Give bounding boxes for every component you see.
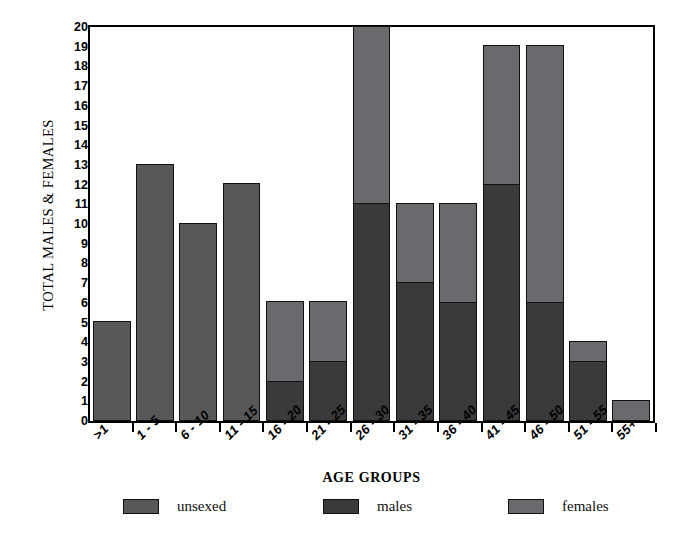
- y-tick-label-19: 19: [62, 41, 88, 53]
- y-tick-label-20: 20: [62, 21, 88, 33]
- bar-group[interactable]: [526, 27, 564, 421]
- bars-layer: [90, 27, 653, 421]
- x-axis-title: AGE GROUPS: [88, 470, 655, 486]
- bar-segment-females[interactable]: [309, 301, 347, 362]
- y-tick-label-11: 11: [62, 198, 88, 210]
- legend-label-unsexed: unsexed: [177, 498, 226, 515]
- y-tick-label-6: 6: [62, 297, 88, 309]
- bar-group[interactable]: [179, 27, 217, 421]
- bar-segment-females[interactable]: [266, 301, 304, 381]
- y-tick-label-12: 12: [62, 179, 88, 191]
- y-tick-label-15: 15: [62, 120, 88, 132]
- bar-segment-males[interactable]: [396, 282, 434, 421]
- legend-swatch-females: [508, 499, 544, 514]
- bar-group[interactable]: [569, 27, 607, 421]
- y-tick-label-2: 2: [62, 376, 88, 388]
- bar-chart-figure: TOTAL MALES & FEMALES 012345678910111213…: [0, 0, 679, 546]
- bar-group[interactable]: [266, 27, 304, 421]
- bar-group[interactable]: [396, 27, 434, 421]
- bar-segment-unsexed[interactable]: [223, 183, 261, 421]
- legend-label-females: females: [562, 498, 609, 515]
- bar-segment-unsexed[interactable]: [136, 164, 174, 422]
- y-tick-label-8: 8: [62, 257, 88, 269]
- y-tick-label-5: 5: [62, 317, 88, 329]
- bar-segment-females[interactable]: [353, 26, 391, 205]
- bar-segment-unsexed[interactable]: [93, 321, 131, 421]
- bar-segment-females[interactable]: [396, 203, 434, 283]
- y-tick-label-4: 4: [62, 336, 88, 348]
- bar-segment-females[interactable]: [569, 341, 607, 362]
- bar-segment-males[interactable]: [483, 183, 521, 421]
- bar-group[interactable]: [439, 27, 477, 421]
- legend-item-males[interactable]: males: [323, 498, 412, 515]
- bar-group[interactable]: [612, 27, 650, 421]
- bar-group[interactable]: [93, 27, 131, 421]
- legend-swatch-males: [323, 499, 359, 514]
- y-tick-label-0: 0: [62, 415, 88, 427]
- y-tick-label-7: 7: [62, 277, 88, 289]
- chart-legend: unsexedmalesfemales: [88, 498, 655, 528]
- y-tick-label-9: 9: [62, 238, 88, 250]
- legend-swatch-unsexed: [123, 499, 159, 514]
- bar-group[interactable]: [353, 27, 391, 421]
- legend-label-males: males: [377, 498, 412, 515]
- y-tick-label-13: 13: [62, 159, 88, 171]
- bar-segment-females[interactable]: [483, 45, 521, 184]
- y-tick-label-18: 18: [62, 60, 88, 72]
- y-tick-label-3: 3: [62, 356, 88, 368]
- y-tick-label-14: 14: [62, 139, 88, 151]
- bar-group[interactable]: [483, 27, 521, 421]
- x-tick-mark-12: [655, 423, 657, 432]
- bar-segment-unsexed[interactable]: [179, 223, 217, 421]
- legend-item-unsexed[interactable]: unsexed: [123, 498, 226, 515]
- bar-segment-females[interactable]: [439, 203, 477, 303]
- bar-segment-females[interactable]: [526, 45, 564, 303]
- bar-segment-males[interactable]: [353, 203, 391, 421]
- bar-group[interactable]: [309, 27, 347, 421]
- bar-group[interactable]: [223, 27, 261, 421]
- bar-group[interactable]: [136, 27, 174, 421]
- y-axis-tick-labels: 01234567891011121314151617181920: [52, 25, 88, 423]
- legend-item-females[interactable]: females: [508, 498, 609, 515]
- y-tick-label-1: 1: [62, 395, 88, 407]
- y-tick-label-16: 16: [62, 100, 88, 112]
- y-tick-label-17: 17: [62, 80, 88, 92]
- y-tick-label-10: 10: [62, 218, 88, 230]
